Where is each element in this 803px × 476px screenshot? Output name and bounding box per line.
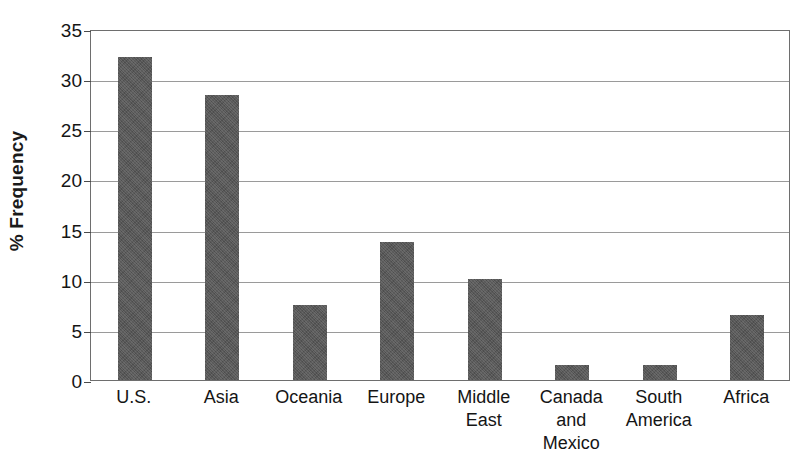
bar — [468, 279, 502, 380]
x-axis-tick-label-line: South — [615, 386, 703, 409]
y-axis-tick-label: 10 — [34, 271, 82, 290]
x-axis-tick-label: Europe — [353, 386, 441, 409]
y-axis-tick-labels: 05101520253035 — [34, 0, 82, 395]
y-axis-tickmark — [84, 131, 91, 132]
bar — [205, 95, 239, 380]
x-axis-tick-label: Asia — [178, 386, 266, 409]
x-axis-tick-label-line: Canada — [528, 386, 616, 409]
x-axis-tick-label: MiddleEast — [440, 386, 528, 432]
y-axis-tickmark — [84, 181, 91, 182]
x-axis-tick-label: SouthAmerica — [615, 386, 703, 432]
y-axis-tick-label: 35 — [34, 21, 82, 40]
y-axis-tick-label: 0 — [34, 372, 82, 391]
x-axis-tick-label-line: Africa — [703, 386, 791, 409]
y-axis-tickmark — [84, 332, 91, 333]
y-axis-tickmark — [84, 232, 91, 233]
plot-area — [90, 30, 790, 381]
x-axis-tick-label-line: America — [615, 409, 703, 432]
bar-chart: % Frequency 05101520253035 U.S.AsiaOcean… — [0, 0, 803, 476]
x-axis-tick-label-line: and — [528, 409, 616, 432]
x-axis-tick-label-line: U.S. — [90, 386, 178, 409]
y-axis-tickmark — [84, 81, 91, 82]
bar — [643, 365, 677, 380]
y-axis-tick-label: 25 — [34, 121, 82, 140]
x-axis-tick-label: U.S. — [90, 386, 178, 409]
x-axis-tick-labels: U.S.AsiaOceaniaEuropeMiddleEastCanadaand… — [90, 386, 790, 476]
bar — [293, 305, 327, 380]
x-axis-tick-label: Africa — [703, 386, 791, 409]
bars-layer — [91, 31, 789, 380]
y-axis-title: % Frequency — [0, 0, 34, 381]
y-axis-tick-label: 15 — [34, 221, 82, 240]
bar — [555, 365, 589, 380]
y-axis-tick-label: 30 — [34, 71, 82, 90]
x-axis-tick-label: Oceania — [265, 386, 353, 409]
y-axis-tickmark — [84, 31, 91, 32]
y-axis-tick-label: 20 — [34, 171, 82, 190]
x-axis-tick-label-line: Mexico — [528, 432, 616, 455]
x-axis-tick-label-line: Asia — [178, 386, 266, 409]
x-axis-tick-label-line: Oceania — [265, 386, 353, 409]
bar — [380, 242, 414, 380]
y-axis-tickmark — [84, 282, 91, 283]
x-axis-tick-label-line: Middle — [440, 386, 528, 409]
x-axis-tick-label-line: East — [440, 409, 528, 432]
x-axis-tick-label-line: Europe — [353, 386, 441, 409]
y-axis-tickmark — [84, 382, 91, 383]
bar — [118, 57, 152, 380]
x-axis-tick-label: CanadaandMexico — [528, 386, 616, 455]
bar — [730, 315, 764, 380]
y-axis-tick-label: 5 — [34, 321, 82, 340]
y-axis-title-text: % Frequency — [6, 130, 28, 250]
